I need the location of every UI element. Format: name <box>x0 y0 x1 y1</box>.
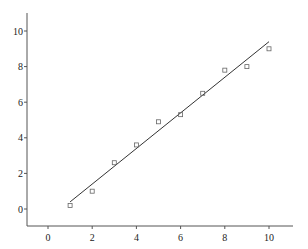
x-axis-ticks: 0246810 <box>46 226 275 243</box>
x-tick-label: 10 <box>264 232 274 243</box>
fit-line <box>70 42 269 202</box>
y-tick-label: 8 <box>18 61 23 72</box>
x-tick-label: 6 <box>178 232 183 243</box>
y-tick-label: 6 <box>18 97 23 108</box>
y-tick-label: 4 <box>18 132 23 143</box>
square-marker-icon <box>134 143 138 147</box>
y-tick-label: 10 <box>13 26 23 37</box>
square-marker-icon <box>157 120 161 124</box>
square-marker-icon <box>68 203 72 207</box>
square-marker-icon <box>223 68 227 72</box>
regression-line <box>70 42 269 202</box>
y-tick-label: 2 <box>18 168 23 179</box>
x-tick-label: 4 <box>134 232 139 243</box>
square-marker-icon <box>267 47 271 51</box>
square-marker-icon <box>245 65 249 69</box>
scatter-chart: 0246810 0246810 <box>0 0 308 249</box>
data-points <box>68 47 271 208</box>
square-marker-icon <box>112 161 116 165</box>
y-axis-ticks: 0246810 <box>13 26 27 215</box>
y-tick-label: 0 <box>18 204 23 215</box>
x-tick-label: 8 <box>222 232 227 243</box>
plot-area: 0246810 0246810 <box>0 0 308 249</box>
x-tick-label: 2 <box>90 232 95 243</box>
x-tick-label: 0 <box>46 232 51 243</box>
square-marker-icon <box>90 189 94 193</box>
